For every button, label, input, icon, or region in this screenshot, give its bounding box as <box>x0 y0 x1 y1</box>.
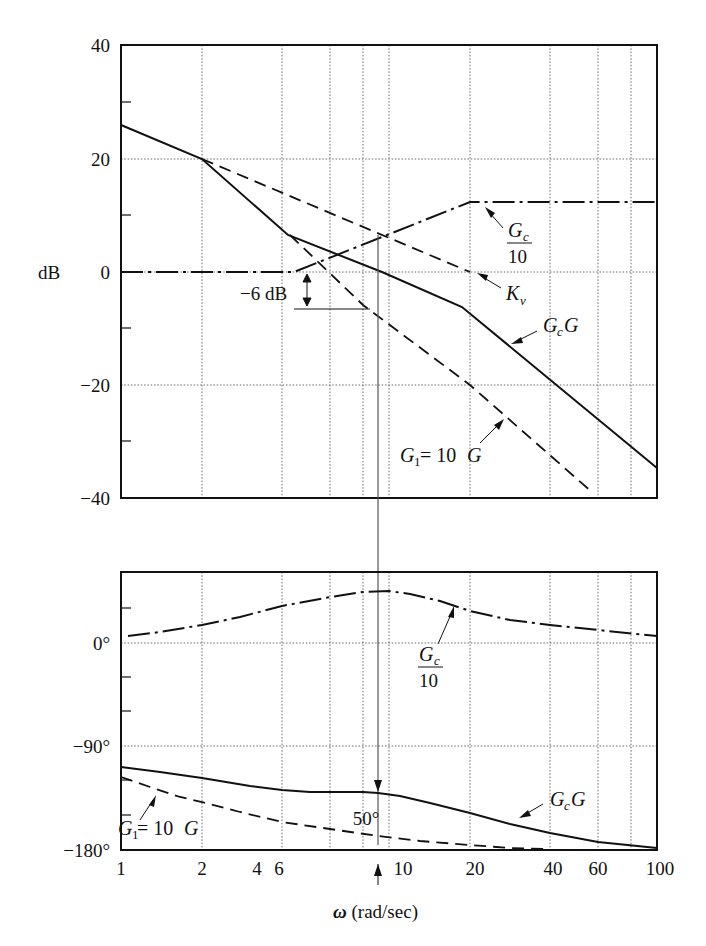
mag-ytick-m40: −40 <box>80 488 110 509</box>
label-gcg-phase: G c G <box>519 788 586 818</box>
phase-ytick-0: 0° <box>93 633 110 654</box>
label-g1-phase: G 1 = 10 G <box>118 795 199 842</box>
phase-minor-ticks <box>121 608 131 815</box>
x-axis-label: ω (rad/sec) <box>333 901 418 923</box>
minus-6db-marker <box>294 274 370 309</box>
label-g1-mag: G 1 = 10 G <box>400 419 504 469</box>
svg-text:K: K <box>505 282 521 304</box>
phase-panel: 50° 0° −90° −180° G c 10 G c G G 1 = <box>63 572 674 923</box>
label-gc-over-10-mag: G c 10 <box>485 207 532 267</box>
svg-text:c: c <box>434 653 440 668</box>
svg-text:100: 100 <box>646 858 675 879</box>
svg-text:6: 6 <box>274 858 284 879</box>
svg-text:= 10: = 10 <box>420 444 456 466</box>
svg-text:10: 10 <box>394 858 413 879</box>
svg-text:G: G <box>184 817 199 839</box>
bode-figure: −6 dB 40 20 0 −20 −40 dB G c 10 K v G <box>0 0 706 946</box>
svg-text:1: 1 <box>116 858 126 879</box>
mag-ytick-40: 40 <box>91 35 110 56</box>
mag-ytick-m20: −20 <box>80 375 110 396</box>
svg-text:G: G <box>118 817 133 839</box>
svg-text:60: 60 <box>589 858 608 879</box>
svg-text:20: 20 <box>466 858 485 879</box>
mag-ytick-20: 20 <box>91 149 110 170</box>
phase-margin-label: 50° <box>353 808 380 829</box>
series-gc-over-10-phase-line <box>128 591 657 636</box>
svg-text:G: G <box>550 788 565 810</box>
svg-text:10: 10 <box>419 670 438 691</box>
svg-text:40: 40 <box>544 858 563 879</box>
arrow-down-icon <box>374 780 382 792</box>
svg-text:v: v <box>520 293 526 308</box>
svg-text:10: 10 <box>508 246 527 267</box>
phase-ytick-m180: −180° <box>63 840 110 861</box>
phase-ytick-m90: −90° <box>73 736 110 757</box>
svg-text:c: c <box>564 798 570 813</box>
label-gc-over-10-phase: G c 10 <box>418 606 454 691</box>
svg-text:G: G <box>564 314 579 336</box>
series-gc-over-10-phase <box>128 593 657 637</box>
svg-text:c: c <box>523 229 529 244</box>
svg-text:G: G <box>508 219 523 241</box>
svg-text:G: G <box>419 643 434 665</box>
mag-ylabel: dB <box>38 262 60 283</box>
magnitude-panel: −6 dB 40 20 0 −20 −40 dB G c 10 K v G <box>38 35 657 845</box>
svg-text:4: 4 <box>252 858 262 879</box>
svg-text:G: G <box>400 444 415 466</box>
minus-6db-label: −6 dB <box>240 283 287 304</box>
svg-text:G: G <box>467 444 482 466</box>
svg-text:c: c <box>557 324 563 339</box>
svg-text:G: G <box>543 314 558 336</box>
label-gcg-mag: G c G <box>511 314 579 344</box>
label-kv: K v <box>477 273 526 308</box>
svg-text:G: G <box>571 788 586 810</box>
svg-text:= 10: = 10 <box>137 817 173 839</box>
x-axis-ticks: 1 2 4 6 10 20 40 60 100 <box>116 858 674 879</box>
svg-text:2: 2 <box>197 858 207 879</box>
mag-ytick-0: 0 <box>101 262 111 283</box>
